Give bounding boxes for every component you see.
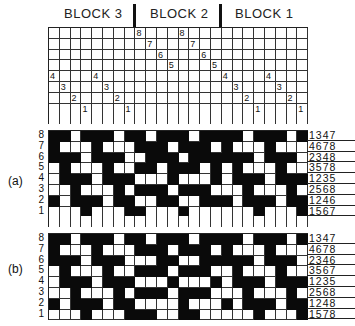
drawdown-cell [49,277,60,288]
threading-cell [179,71,190,82]
drawdown-cell [71,185,82,196]
threading-cell [254,50,265,61]
drawdown-cell [135,185,146,196]
drawdown-cell [211,234,222,245]
tieup-entry: 1578 [307,309,355,320]
drawdown-cell [92,174,103,185]
threading-cell: 2 [243,93,254,104]
drawdown-cell [211,153,222,164]
drawdown-cell [211,288,222,299]
drawdown-cell [114,142,125,153]
drawdown-cell [179,256,190,267]
threading-cell [189,60,200,71]
threading-cell [135,39,146,50]
drawdown-cell [287,174,298,185]
drawdown-cell [287,234,298,245]
drawdown-cell [276,234,287,245]
drawdown-cell [103,174,114,185]
drawdown-cell [60,131,71,142]
drawdown-cell [49,196,60,207]
drawdown-cell [60,266,71,277]
threading-cell [233,50,244,61]
drawdown-cell [189,277,200,288]
drawdown-cell [114,163,125,174]
spacer-cell [233,113,244,124]
drawdown-cell [276,153,287,164]
drawdown-cell [233,256,244,267]
drawdown-cell [168,185,179,196]
drawdown-cell [200,245,211,256]
drawdown-cell [103,163,114,174]
threading-cell [103,93,114,104]
threading-cell [114,39,125,50]
drawdown-cell [103,142,114,153]
spacer-cell [211,113,222,124]
spacer-cell [254,113,265,124]
drawdown-cell [146,174,157,185]
drawdown-cell [135,256,146,267]
drawdown-cell [189,163,200,174]
drawdown-cell [146,299,157,310]
spacer-cell [287,113,298,124]
threading-cell [254,82,265,93]
drawdown-cell [243,196,254,207]
drawdown-cell [146,256,157,267]
threading-cell [254,60,265,71]
threading-cell [233,28,244,39]
drawdown-cell [49,234,60,245]
drawdown-cell [189,131,200,142]
threading-cell [168,93,179,104]
drawdown-cell [265,299,276,310]
threading-cell [179,82,190,93]
drawdown-cell [125,196,136,207]
drawdown-cell [287,310,298,321]
drawdown-cell [189,266,200,277]
drawdown-cell [146,245,157,256]
drawdown-cell [179,196,190,207]
threading-cell [211,82,222,93]
drawdown-cell [200,288,211,299]
threading-cell [114,28,125,39]
drawdown-cell [200,142,211,153]
drawdown-cell [103,196,114,207]
threading-cell [125,50,136,61]
threading-cell: 7 [146,39,157,50]
threading-cell [168,39,179,50]
drawdown-cell [254,266,265,277]
spacer-cell [114,113,125,124]
drawdown-cell [81,245,92,256]
drawdown-cell [254,174,265,185]
spacer-cell [179,113,190,124]
drawdown-cell [49,266,60,277]
drawdown-cell [60,174,71,185]
threading-cell [287,28,298,39]
threading-cell [71,50,82,61]
drawdown-cell [103,256,114,267]
threading-cell [189,93,200,104]
threading-cell [146,71,157,82]
threading-cell: 4 [92,71,103,82]
threading-cell [103,28,114,39]
threading-cell [114,82,125,93]
drawdown-cell [92,266,103,277]
block-1-label: BLOCK 1 [235,6,293,21]
threading-cell [179,50,190,61]
drawdown-cell [125,234,136,245]
spacer-cell [222,216,233,227]
spacer-cell [265,216,276,227]
threading-cell [146,82,157,93]
threading-cell [265,93,276,104]
drawdown-cell [233,277,244,288]
drawdown-cell [233,142,244,153]
drawdown-cell [92,256,103,267]
drawdown-cell [222,174,233,185]
drawdown-cell [168,153,179,164]
threading-cell [49,50,60,61]
threading-cell [103,71,114,82]
threading-cell [276,50,287,61]
threading-cell [146,50,157,61]
threading-cell [265,60,276,71]
drawdown-cell [287,288,298,299]
drawdown-cell [125,310,136,321]
threading-cell [297,50,308,61]
